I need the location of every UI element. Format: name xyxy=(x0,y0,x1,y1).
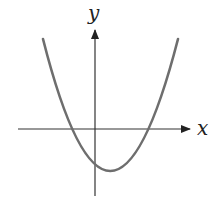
parabola-curve xyxy=(43,39,178,171)
y-axis-label: y xyxy=(87,1,100,25)
x-axis-label: x xyxy=(197,116,208,140)
parabola-graph: x y xyxy=(0,0,221,198)
